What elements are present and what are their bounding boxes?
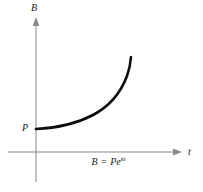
equation-relation: = xyxy=(100,156,108,167)
intercept-label-p: P xyxy=(22,123,28,133)
equation-lhs: B xyxy=(92,156,98,167)
exponential-growth-figure: B t P B = Pekt xyxy=(0,0,203,192)
x-axis-arrowhead-icon xyxy=(173,149,182,156)
exponential-curve xyxy=(36,57,131,129)
x-axis-label: t xyxy=(188,147,191,157)
y-axis-label: B xyxy=(31,3,37,13)
equation-exponent: kt xyxy=(121,155,126,162)
y-axis-arrowhead-icon xyxy=(33,17,40,26)
x-axis xyxy=(8,149,182,156)
equation-caption: B = Pekt xyxy=(0,157,203,167)
equation-base: Pe xyxy=(110,156,121,167)
